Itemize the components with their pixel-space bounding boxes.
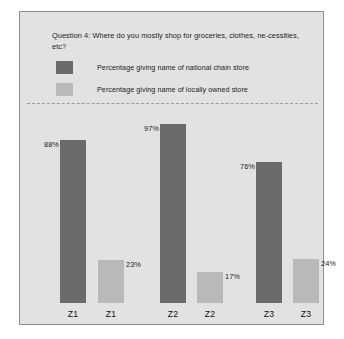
chart-legend: Percentage giving name of national chain… [56, 57, 306, 101]
bar-z3-local [293, 259, 319, 303]
chart-panel: Question 4: Where do you mostly shop for… [19, 11, 324, 325]
legend-label-national-chain: Percentage giving name of national chain… [97, 63, 249, 72]
legend-divider [27, 103, 318, 104]
bar-z1-local [98, 260, 124, 303]
legend-label-locally-owned: Percentage giving name of locally owned … [97, 85, 248, 94]
chart-title: Question 4: Where do you mostly shop for… [52, 31, 302, 52]
bar-value-z3-national: 76% [240, 162, 255, 171]
chart-plot-area: 88% Z1 23% Z1 97% Z2 17% Z2 76% Z3 24% Z… [27, 107, 318, 324]
legend-swatch-locally-owned-icon [56, 83, 73, 96]
legend-swatch-national-chain-icon [56, 61, 73, 74]
axis-label-z3-national: Z3 [256, 309, 282, 319]
bar-value-z1-national: 88% [44, 140, 59, 149]
axis-label-z2-national: Z2 [160, 309, 186, 319]
legend-item-locally-owned: Percentage giving name of locally owned … [56, 79, 306, 99]
axis-label-z2-local: Z2 [197, 309, 223, 319]
bar-z1-national [60, 140, 86, 303]
bar-value-z2-local: 17% [225, 272, 240, 281]
axis-label-z1-local: Z1 [98, 309, 124, 319]
bar-value-z1-local: 23% [126, 260, 141, 269]
axis-label-z1-national: Z1 [60, 309, 86, 319]
axis-label-z3-local: Z3 [293, 309, 319, 319]
bar-value-z2-national: 97% [144, 124, 159, 133]
bar-value-z3-local: 24% [321, 259, 336, 268]
legend-item-national-chain: Percentage giving name of national chain… [56, 57, 306, 77]
bar-z2-national [160, 124, 186, 303]
bar-z3-national [256, 162, 282, 303]
bar-z2-local [197, 272, 223, 303]
